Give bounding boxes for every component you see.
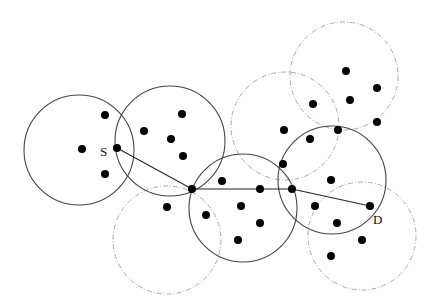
sensor-node [101,111,109,119]
sensor-node [178,110,186,118]
sensor-node [358,236,366,244]
sensor-node [218,177,226,185]
sensor-nodes [78,67,381,260]
sensor-node [309,100,317,108]
sensor-node [237,202,245,210]
sensor-node [306,135,314,143]
dashed-range-circle [290,22,398,130]
network-diagram: S D [0,0,439,307]
sensor-node [140,127,148,135]
sensor-node [188,185,196,193]
sensor-node [256,185,264,193]
sensor-node [167,135,175,143]
sensor-node [334,126,342,134]
sensor-node [373,84,381,92]
sensor-node [311,202,319,210]
sensor-node [202,211,210,219]
sensor-node [101,170,109,178]
sensor-node [179,152,187,160]
solid-range-circles [24,86,386,262]
sensor-node [256,219,264,227]
sensor-node [373,118,381,126]
sensor-node [366,202,374,210]
sensor-node [333,219,341,227]
dashed-range-circle [113,186,221,294]
sensor-node [163,203,171,211]
sensor-node [78,145,86,153]
sensor-node [342,67,350,75]
sensor-node [327,252,335,260]
sensor-node [234,236,242,244]
sensor-node [346,96,354,104]
sensor-node [288,185,296,193]
sensor-node [280,126,288,134]
destination-label: D [373,212,382,227]
sensor-node [327,176,335,184]
sensor-node [279,160,287,168]
sensor-node [113,144,121,152]
source-label: S [100,144,107,159]
